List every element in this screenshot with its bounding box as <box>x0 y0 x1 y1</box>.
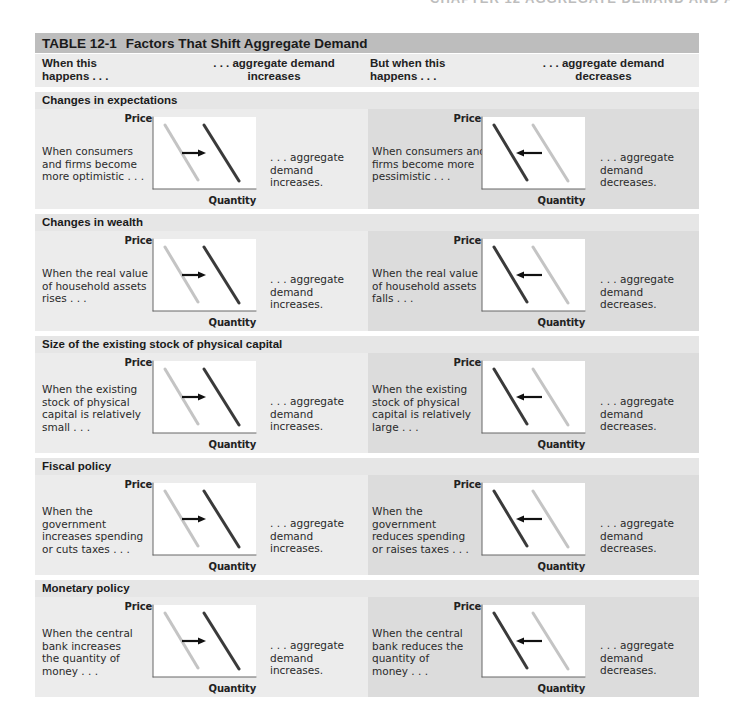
text-line: demand decreases. <box>600 530 699 555</box>
text-line: demand decreases. <box>600 164 699 189</box>
text-line: demand increases. <box>270 164 368 189</box>
ad-shift-right-chart: Price Quantity <box>117 235 257 330</box>
ad-curve-graph <box>446 235 586 330</box>
axis-label-quantity: Quantity <box>209 561 256 572</box>
text-line: demand decreases. <box>600 286 699 311</box>
axis-label-quantity: Quantity <box>209 439 256 450</box>
column-header-effect-decrease: . . . aggregate demand decreases <box>508 54 699 87</box>
text-line: demand increases. <box>270 408 368 433</box>
running-head: CHAPTER 12 AGGREGATE DEMAND AND AGGREGAT… <box>430 0 730 5</box>
decrease-panel: When the existingstock of physicalcapita… <box>368 353 699 453</box>
axis-label-price: Price <box>125 113 152 124</box>
text-line: . . . aggregate <box>270 395 368 408</box>
increase-panel: When the existingstock of physicalcapita… <box>35 353 368 453</box>
increase-panel: When the real valueof household assetsri… <box>35 231 368 331</box>
axis-label-quantity: Quantity <box>538 561 585 572</box>
table-section: Monetary policy When the centralbank inc… <box>35 580 699 697</box>
ad-shift-left-chart: Price Quantity <box>446 357 586 452</box>
section-heading: Changes in wealth <box>35 214 699 231</box>
effect-text: . . . aggregatedemand increases. <box>270 517 368 555</box>
effect-text: . . . aggregatedemand increases. <box>270 151 368 189</box>
axis-label-price: Price <box>454 113 481 124</box>
axis-label-quantity: Quantity <box>538 683 585 694</box>
ad-shift-left-chart: Price Quantity <box>446 235 586 330</box>
decrease-panel: When thegovernmentreduces spendingor rai… <box>368 475 699 575</box>
ad-curve-graph <box>117 235 257 330</box>
ad-shift-right-chart: Price Quantity <box>117 113 257 208</box>
axis-label-quantity: Quantity <box>538 439 585 450</box>
effect-text: . . . aggregatedemand decreases. <box>600 639 699 677</box>
axis-label-price: Price <box>454 235 481 246</box>
decrease-panel: When the centralbank reduces thequantity… <box>368 597 699 697</box>
axis-label-price: Price <box>454 357 481 368</box>
effect-text: . . . aggregatedemand increases. <box>270 395 368 433</box>
section-body: When the centralbank increasesthe quanti… <box>35 597 699 697</box>
column-headers: When this happens . . . . . . aggregate … <box>35 54 699 87</box>
effect-text: . . . aggregatedemand decreases. <box>600 517 699 555</box>
axis-label-quantity: Quantity <box>209 317 256 328</box>
section-heading: Monetary policy <box>35 580 699 597</box>
axis-label-quantity: Quantity <box>538 317 585 328</box>
section-heading: Fiscal policy <box>35 458 699 475</box>
axis-label-price: Price <box>125 601 152 612</box>
axis-label-price: Price <box>454 601 481 612</box>
text-line: demand increases. <box>270 530 368 555</box>
table-sections: Changes in expectations When consumersan… <box>35 92 699 697</box>
effect-text: . . . aggregatedemand increases. <box>270 273 368 311</box>
text-line: . . . aggregate <box>270 639 368 652</box>
section-body: When thegovernmentincreases spendingor c… <box>35 475 699 575</box>
axis-label-price: Price <box>125 479 152 490</box>
text-line: . . . aggregate <box>600 639 699 652</box>
ad-curve-graph <box>446 357 586 452</box>
text-line: . . . aggregate <box>600 151 699 164</box>
ad-shift-right-chart: Price Quantity <box>117 601 257 696</box>
effect-text: . . . aggregatedemand decreases. <box>600 273 699 311</box>
text-line: . . . aggregate <box>270 151 368 164</box>
ad-curve-graph <box>117 113 257 208</box>
text-line: . . . aggregate <box>600 517 699 530</box>
column-header-effect-increase: . . . aggregate demand increases <box>180 54 368 87</box>
text-line: demand increases. <box>270 286 368 311</box>
axis-label-quantity: Quantity <box>538 195 585 206</box>
increase-panel: When thegovernmentincreases spendingor c… <box>35 475 368 575</box>
section-body: When the real valueof household assetsri… <box>35 231 699 331</box>
table-number: TABLE 12-1 <box>42 36 117 51</box>
effect-text: . . . aggregatedemand decreases. <box>600 151 699 189</box>
text-line: . . . aggregate <box>270 273 368 286</box>
axis-label-quantity: Quantity <box>209 683 256 694</box>
text-line: demand decreases. <box>600 408 699 433</box>
ad-shift-left-chart: Price Quantity <box>446 113 586 208</box>
table-section: Size of the existing stock of physical c… <box>35 336 699 453</box>
increase-panel: When the centralbank increasesthe quanti… <box>35 597 368 697</box>
ad-curve-graph <box>446 479 586 574</box>
axis-label-quantity: Quantity <box>209 195 256 206</box>
ad-curve-graph <box>446 113 586 208</box>
ad-shift-left-chart: Price Quantity <box>446 601 586 696</box>
ad-shift-right-chart: Price Quantity <box>117 479 257 574</box>
text-line: . . . aggregate <box>600 273 699 286</box>
axis-label-price: Price <box>454 479 481 490</box>
table-title-bar: TABLE 12-1 Factors That Shift Aggregate … <box>35 33 699 53</box>
section-heading: Changes in expectations <box>35 92 699 109</box>
increase-panel: When consumersand firms becomemore optim… <box>35 109 368 209</box>
section-body: When consumersand firms becomemore optim… <box>35 109 699 209</box>
effect-text: . . . aggregatedemand increases. <box>270 639 368 677</box>
axis-label-price: Price <box>125 357 152 368</box>
ad-curve-graph <box>117 357 257 452</box>
table-12-1: TABLE 12-1 Factors That Shift Aggregate … <box>35 33 699 697</box>
text-line: demand increases. <box>270 652 368 677</box>
table-title: Factors That Shift Aggregate Demand <box>126 36 368 51</box>
decrease-panel: When the real valueof household assetsfa… <box>368 231 699 331</box>
text-line: demand decreases. <box>600 652 699 677</box>
ad-shift-left-chart: Price Quantity <box>446 479 586 574</box>
table-section: Changes in expectations When consumersan… <box>35 92 699 209</box>
table-section: Changes in wealth When the real valueof … <box>35 214 699 331</box>
effect-text: . . . aggregatedemand decreases. <box>600 395 699 433</box>
text-line: . . . aggregate <box>600 395 699 408</box>
ad-curve-graph <box>117 601 257 696</box>
column-header-cause-increase: When this happens . . . <box>35 54 180 87</box>
ad-curve-graph <box>446 601 586 696</box>
table-section: Fiscal policy When thegovernmentincrease… <box>35 458 699 575</box>
text-line: . . . aggregate <box>270 517 368 530</box>
section-body: When the existingstock of physicalcapita… <box>35 353 699 453</box>
